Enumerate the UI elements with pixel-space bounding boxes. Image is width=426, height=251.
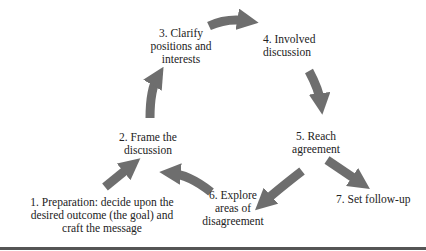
- step-2-label: 2. Frame the discussion: [113, 131, 183, 157]
- step-3-label: 3. Clarify positions and interests: [146, 27, 216, 66]
- bottom-rule: [0, 247, 426, 250]
- step-5-line-1: 5. Reach: [286, 130, 346, 143]
- step-2-line-2: discussion: [113, 144, 183, 157]
- step-3-line-1: 3. Clarify: [146, 27, 216, 40]
- step-1-line-1: 1. Preparation: decide upon the: [12, 196, 192, 209]
- step-6-line-1: 6. Explore: [198, 189, 268, 202]
- step-5-line-2: agreement: [286, 143, 346, 156]
- arrow-5-to-7: [327, 160, 361, 183]
- step-6-label: 6. Explore areas of disagreement: [198, 189, 268, 228]
- step-4-label: 4. Involved discussion: [263, 33, 323, 59]
- step-6-line-3: disagreement: [198, 215, 268, 228]
- step-4-line-2: discussion: [263, 46, 323, 59]
- arrow-4-to-5: [309, 71, 321, 104]
- step-2-line-1: 2. Frame the: [113, 131, 183, 144]
- step-1-label: 1. Preparation: decide upon the desired …: [12, 196, 192, 235]
- arrow-2-to-3: [150, 76, 158, 118]
- step-7-label: 7. Set follow-up: [336, 193, 426, 206]
- step-6-line-2: areas of: [198, 202, 268, 215]
- arrow-1-to-2: [105, 165, 132, 187]
- step-1-line-2: desired outcome (the goal) and: [12, 209, 192, 222]
- step-3-line-2: positions and: [146, 40, 216, 53]
- step-7-line-1: 7. Set follow-up: [336, 193, 426, 206]
- step-5-label: 5. Reach agreement: [286, 130, 346, 156]
- step-4-line-1: 4. Involved: [263, 33, 323, 46]
- arrow-5-to-6: [263, 171, 302, 203]
- step-1-line-3: craft the message: [12, 222, 192, 235]
- arrow-3-to-4: [209, 20, 248, 26]
- step-3-line-3: interests: [146, 53, 216, 66]
